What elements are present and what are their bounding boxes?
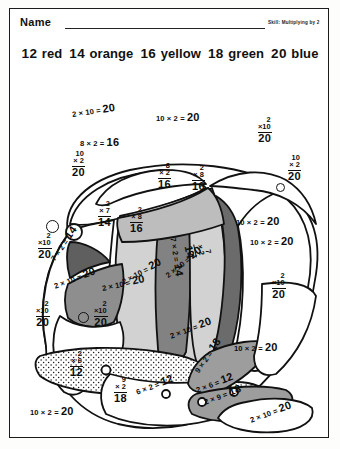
problem-p22: 10 × 2 = 20	[250, 236, 294, 247]
problem-p4: 2 ×10 20	[258, 116, 272, 144]
problem-p16: 2 ×10 20	[94, 300, 108, 328]
problem-p5: 10 × 2 20	[72, 150, 85, 178]
key-number: 12	[21, 46, 37, 61]
problem-p15: 2 ×10 20	[36, 300, 50, 328]
key-number: 14	[69, 46, 85, 61]
problem-p14: 2 ×10 20	[38, 232, 52, 260]
color-dot	[276, 183, 285, 192]
problem-p23: 10 × 2 = 20	[30, 406, 74, 417]
key-item-16: 16 yellow	[140, 44, 201, 62]
key-color-name: red	[42, 46, 63, 61]
color-dot	[46, 220, 59, 233]
problem-p10: 2 × 7 14	[98, 200, 111, 228]
name-row: Name Skill: Multiplying by 2	[20, 16, 320, 32]
key-number: 16	[140, 46, 156, 61]
key-item-12: 12 red	[21, 44, 62, 62]
problem-p8: 2 × 8 16	[192, 164, 205, 192]
key-color-name: green	[228, 46, 264, 61]
key-item-20: 20 blue	[271, 44, 318, 62]
key-color-name: orange	[90, 46, 134, 61]
key-number: 18	[208, 46, 224, 61]
problem-p7: 8 × 2 16	[158, 162, 171, 190]
color-key: 12 red 14 orange 16 yellow 18 green 20 b…	[18, 44, 322, 78]
problem-p9: 2 × 8 16	[130, 206, 143, 234]
problem-p25: 2 × 6 12	[70, 350, 83, 378]
problem-p28: 9 × 2 18	[114, 376, 127, 404]
skill-label: Skill: Multiplying by 2	[268, 20, 320, 25]
key-number: 20	[271, 46, 287, 61]
name-label: Name	[20, 16, 51, 28]
worksheet-page: Name Skill: Multiplying by 2 12 red 14 o…	[0, 0, 340, 449]
key-item-14: 14 orange	[69, 44, 133, 62]
problem-p6: 10 × 2 20	[288, 154, 301, 182]
key-color-name: yellow	[161, 46, 201, 61]
problem-p32: 10 × 2 = 20	[234, 342, 278, 353]
problem-p17: 2 ×10 20	[272, 272, 286, 300]
name-write-line[interactable]	[65, 28, 265, 29]
problem-p3: 8 × 2 = 16	[80, 137, 119, 148]
color-dot	[78, 312, 89, 323]
key-item-18: 18 green	[208, 44, 264, 62]
problem-p21: 10 × 2 = 20	[236, 216, 280, 227]
problem-p2: 10 × 2 = 20	[156, 112, 200, 123]
color-by-number-picture: 2 × 10 = 20 10 × 2 = 20 8 × 2 = 16 2 ×10…	[10, 84, 328, 436]
key-color-name: blue	[291, 46, 318, 61]
